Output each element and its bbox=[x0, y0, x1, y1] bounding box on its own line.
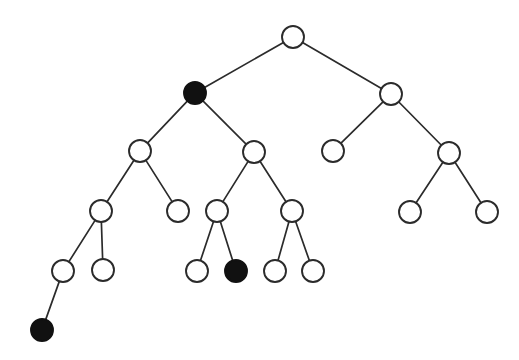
tree-edge bbox=[107, 160, 135, 202]
tree-node-open bbox=[206, 200, 228, 222]
tree-node-open bbox=[167, 200, 189, 222]
tree-edge bbox=[146, 160, 173, 202]
tree-edge bbox=[278, 221, 289, 261]
tree-node-open bbox=[186, 260, 208, 282]
tree-edge bbox=[260, 161, 287, 202]
tree-node-filled bbox=[184, 82, 206, 104]
tree-edge bbox=[295, 221, 309, 261]
tree-edge bbox=[202, 100, 246, 144]
tree-node-open bbox=[282, 26, 304, 48]
tree-node-open bbox=[52, 260, 74, 282]
tree-diagram-canvas bbox=[0, 0, 519, 360]
tree-node-open bbox=[264, 260, 286, 282]
tree-node-filled bbox=[225, 260, 247, 282]
tree-node-open bbox=[129, 140, 151, 162]
tree-node-open bbox=[322, 140, 344, 162]
tree-edge bbox=[302, 42, 382, 88]
tree-edge bbox=[200, 221, 213, 261]
tree-node-open bbox=[476, 201, 498, 223]
tree-diagram-figure bbox=[0, 0, 519, 360]
tree-edge bbox=[340, 101, 383, 143]
tree-edge bbox=[46, 281, 60, 320]
tree-edge bbox=[223, 161, 249, 202]
tree-node-open bbox=[380, 83, 402, 105]
tree-node-open bbox=[438, 142, 460, 164]
tree-node-open bbox=[92, 259, 114, 281]
tree-node-open bbox=[90, 200, 112, 222]
tree-edge bbox=[220, 221, 233, 261]
tree-node-open bbox=[302, 260, 324, 282]
tree-node-open bbox=[281, 200, 303, 222]
tree-edge bbox=[398, 101, 441, 145]
tree-edge bbox=[416, 162, 443, 203]
tree-node-open bbox=[243, 141, 265, 163]
tree-edge bbox=[101, 221, 102, 259]
tree-edge bbox=[204, 42, 284, 88]
tree-edge bbox=[455, 162, 482, 203]
tree-node-filled bbox=[31, 319, 53, 341]
tree-edge bbox=[69, 220, 96, 262]
tree-edge bbox=[147, 101, 188, 144]
tree-node-open bbox=[399, 201, 421, 223]
